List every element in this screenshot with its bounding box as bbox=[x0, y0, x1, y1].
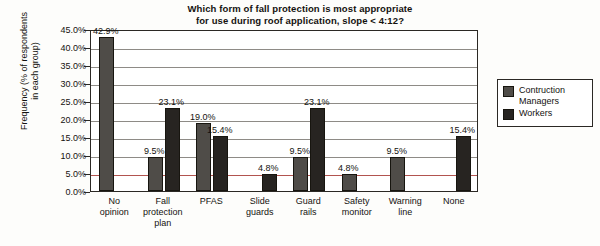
bar bbox=[342, 174, 357, 191]
y-tick-mark bbox=[84, 192, 90, 193]
bar bbox=[99, 37, 114, 191]
x-axis-category-label: Guardrails bbox=[284, 196, 333, 218]
bar-value-label: 9.5% bbox=[280, 147, 320, 156]
x-axis-category-label: Safetymonitor bbox=[333, 196, 382, 218]
legend-label-workers-line-1: Workers bbox=[519, 108, 552, 119]
x-axis-category-label: None bbox=[430, 196, 479, 207]
chart-title: Which form of fall protection is most ap… bbox=[120, 3, 480, 27]
legend-item-managers: Contruction Managers bbox=[503, 85, 587, 106]
y-tick-label: 30.0% bbox=[26, 80, 86, 89]
gridline bbox=[91, 67, 477, 68]
x-axis-category-label: Warningline bbox=[381, 196, 430, 218]
x-axis-category-label: Noopinion bbox=[90, 196, 139, 218]
y-axis-title: Frequency (% of respondents in each grou… bbox=[19, 0, 41, 151]
y-tick-label: 25.0% bbox=[26, 98, 86, 107]
bar-value-label: 23.1% bbox=[297, 98, 337, 107]
bar-value-label: 9.5% bbox=[134, 147, 174, 156]
legend-label-managers-line-2: Managers bbox=[519, 96, 565, 107]
bar-value-label: 23.1% bbox=[151, 98, 191, 107]
y-tick-label: 40.0% bbox=[26, 44, 86, 53]
bar-chart: Which form of fall protection is most ap… bbox=[0, 0, 600, 246]
chart-title-line-1: Which form of fall protection is most ap… bbox=[120, 3, 480, 15]
y-tick-label: 45.0% bbox=[26, 26, 86, 35]
x-axis-category-line: Slide bbox=[236, 196, 285, 207]
bar bbox=[148, 157, 163, 191]
x-axis-category-line: plan bbox=[139, 218, 188, 229]
x-axis-category-line: guards bbox=[236, 207, 285, 218]
y-axis-title-line-2: in each group) bbox=[30, 0, 41, 151]
y-axis-title-line-1: Frequency (% of respondents bbox=[19, 0, 30, 151]
y-tick-label: 0.0% bbox=[26, 188, 86, 197]
bar bbox=[293, 157, 308, 191]
x-axis-category-line: No bbox=[90, 196, 139, 207]
x-axis-category-line: Safety bbox=[333, 196, 382, 207]
y-tick-label: 15.0% bbox=[26, 134, 86, 143]
y-tick-label: 20.0% bbox=[26, 116, 86, 125]
gridline bbox=[91, 49, 477, 50]
legend-swatch-workers bbox=[503, 109, 514, 120]
legend: Contruction Managers Workers bbox=[497, 79, 593, 127]
x-axis-category-line: opinion bbox=[90, 207, 139, 218]
legend-label-workers: Workers bbox=[519, 108, 552, 119]
gridline bbox=[91, 139, 477, 140]
x-axis-category-line: protection bbox=[139, 207, 188, 218]
gridline bbox=[91, 121, 477, 122]
bar bbox=[262, 174, 277, 191]
legend-swatch-managers bbox=[503, 86, 514, 97]
bar bbox=[456, 136, 471, 191]
x-axis-category-line: None bbox=[430, 196, 479, 207]
x-axis-category-line: PFAS bbox=[187, 196, 236, 207]
bar-value-label: 15.4% bbox=[200, 126, 240, 135]
gridline bbox=[91, 103, 477, 104]
x-axis-category-line: monitor bbox=[333, 207, 382, 218]
x-axis-category-line: rails bbox=[284, 207, 333, 218]
x-axis-category-line: Fall bbox=[139, 196, 188, 207]
legend-item-workers: Workers bbox=[503, 108, 587, 120]
bar-value-label: 9.5% bbox=[377, 147, 417, 156]
y-tick-label: 5.0% bbox=[26, 170, 86, 179]
bar-value-label: 19.0% bbox=[183, 113, 223, 122]
x-axis-category-label: Slideguards bbox=[236, 196, 285, 218]
chart-title-line-2: for use during roof application, slope <… bbox=[120, 15, 480, 27]
legend-label-managers-line-1: Contruction bbox=[519, 85, 565, 96]
bar-value-label: 42.9% bbox=[86, 27, 126, 36]
x-axis-category-line: Guard bbox=[284, 196, 333, 207]
x-axis-category-line: Warning bbox=[381, 196, 430, 207]
x-axis-category-line: line bbox=[381, 207, 430, 218]
y-tick-label: 35.0% bbox=[26, 62, 86, 71]
bar-value-label: 15.4% bbox=[442, 126, 482, 135]
bar bbox=[213, 136, 228, 191]
bar bbox=[390, 157, 405, 191]
bar-value-label: 4.8% bbox=[328, 164, 368, 173]
bar-value-label: 4.8% bbox=[248, 164, 288, 173]
x-axis-category-label: PFAS bbox=[187, 196, 236, 207]
y-tick-label: 10.0% bbox=[26, 152, 86, 161]
legend-label-managers: Contruction Managers bbox=[519, 85, 565, 106]
x-axis-category-label: Fallprotectionplan bbox=[139, 196, 188, 229]
gridline bbox=[91, 85, 477, 86]
